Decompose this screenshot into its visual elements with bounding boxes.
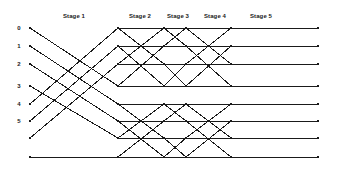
- stage-label: Stage 4: [204, 13, 226, 19]
- network-node: [230, 45, 233, 48]
- network-node: [117, 120, 120, 123]
- stage-label: Stage 5: [250, 13, 272, 19]
- network-node: [29, 137, 32, 140]
- network-node: [117, 103, 120, 106]
- network-node: [117, 27, 120, 30]
- network-node: [230, 85, 233, 88]
- edges-layer: [30, 28, 318, 157]
- network-node: [163, 137, 166, 140]
- network-graph-svg: [0, 0, 338, 170]
- network-node: [29, 156, 32, 159]
- network-node: [163, 103, 166, 106]
- network-node: [317, 85, 320, 88]
- network-node: [317, 45, 320, 48]
- network-node: [230, 27, 233, 30]
- stage-label: Stage 1: [63, 13, 85, 19]
- row-label: 4: [17, 101, 20, 107]
- network-node: [317, 137, 320, 140]
- network-node: [185, 85, 188, 88]
- network-node: [29, 85, 32, 88]
- network-node: [230, 137, 233, 140]
- network-node: [185, 120, 188, 123]
- network-node: [117, 137, 120, 140]
- network-node: [185, 63, 188, 66]
- network-node: [29, 27, 32, 30]
- row-label: 3: [17, 83, 20, 89]
- row-label: 5: [17, 118, 20, 124]
- network-node: [163, 156, 166, 159]
- network-node: [230, 103, 233, 106]
- network-node: [117, 45, 120, 48]
- network-node: [163, 120, 166, 123]
- network-node: [163, 85, 166, 88]
- network-node: [230, 120, 233, 123]
- row-label: 1: [17, 43, 20, 49]
- network-node: [317, 103, 320, 106]
- network-node: [163, 27, 166, 30]
- network-node: [185, 27, 188, 30]
- network-node: [185, 156, 188, 159]
- row-label: 0: [17, 25, 20, 31]
- network-node: [317, 120, 320, 123]
- network-node: [317, 63, 320, 66]
- network-node: [117, 156, 120, 159]
- network-node: [317, 27, 320, 30]
- stage-label: Stage 2: [129, 13, 151, 19]
- network-node: [185, 137, 188, 140]
- network-node: [29, 45, 32, 48]
- network-node: [117, 85, 120, 88]
- network-node: [230, 156, 233, 159]
- network-node: [29, 63, 32, 66]
- network-node: [185, 45, 188, 48]
- network-node: [163, 63, 166, 66]
- network-node: [185, 103, 188, 106]
- stage-label: Stage 3: [167, 13, 189, 19]
- network-node: [29, 120, 32, 123]
- network-node: [163, 45, 166, 48]
- network-diagram-figure: Stage 1Stage 2Stage 3Stage 4Stage 5 0123…: [0, 0, 338, 170]
- network-node: [117, 63, 120, 66]
- row-label: 2: [17, 61, 20, 67]
- network-node: [317, 156, 320, 159]
- network-node: [29, 103, 32, 106]
- network-node: [230, 63, 233, 66]
